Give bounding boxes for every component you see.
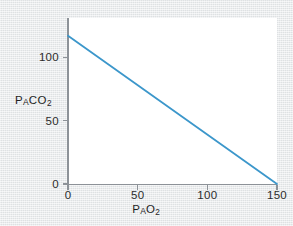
chart-figure: 050100050100150 PACO2 PAO2 (0, 0, 293, 226)
y-axis-title-lead: P (15, 94, 23, 106)
y-axis-title-subscript-a: A (23, 97, 29, 107)
x-axis-title-subscript-2: 2 (155, 208, 160, 217)
x-axis-title: PAO2 (132, 203, 160, 215)
y-axis-title-subscript-2: 2 (47, 99, 52, 108)
x-axis-title-subscript-a: A (140, 206, 146, 216)
y-axis-title-mid: CO (29, 94, 47, 106)
x-axis-title-lead: P (132, 203, 140, 215)
data-line-layer (0, 0, 293, 226)
x-axis-title-mid: O (146, 203, 155, 215)
y-axis-title: PACO2 (15, 94, 51, 106)
series-line-alveolar (68, 36, 277, 184)
